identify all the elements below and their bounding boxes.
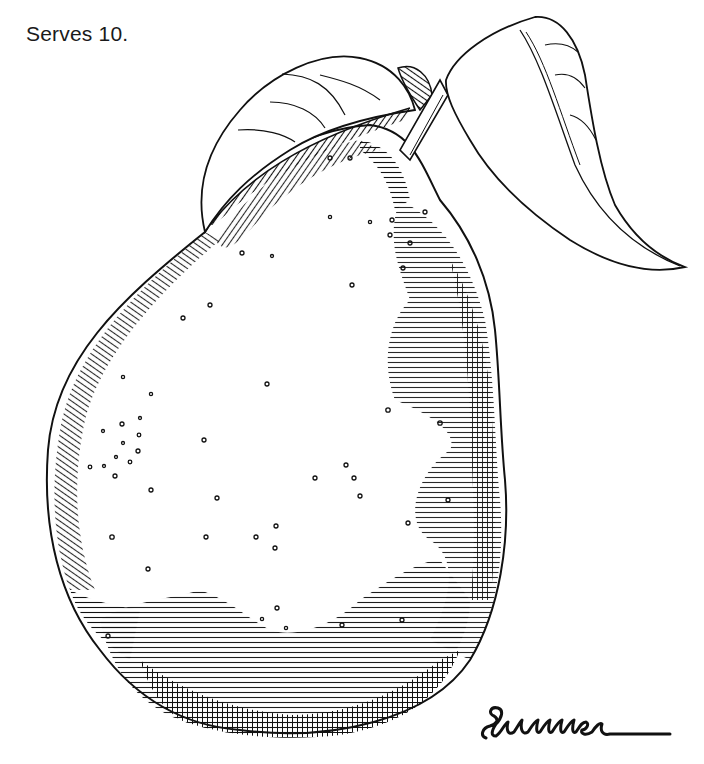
pear-body [47,125,506,738]
pear-illustration [0,0,704,764]
right-leaf [446,17,685,270]
